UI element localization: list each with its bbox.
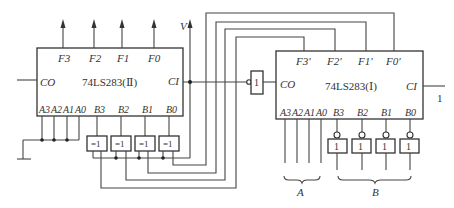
- pin-b3-i: B3: [333, 107, 344, 118]
- pin-b1-ii: B1: [142, 104, 153, 115]
- b-inverters: 1 1 1 1: [328, 119, 419, 170]
- pin-a1-ii: A1: [62, 104, 74, 115]
- a-inputs-ground-bus: [17, 116, 79, 159]
- pin-a2-i: A2: [291, 107, 303, 118]
- pin-co-ii: CO: [40, 76, 55, 88]
- pin-a3-ii: A3: [38, 104, 50, 115]
- pin-f1-prime: F1': [357, 55, 373, 67]
- circuit-diagram: F3 F2 F1 F0 74LS283(Ⅱ) CO CI A3 A2 A1 A0…: [0, 0, 454, 208]
- pin-f3-prime: F3': [295, 55, 311, 67]
- svg-text:1: 1: [358, 141, 363, 152]
- pin-b2-ii: B2: [118, 104, 129, 115]
- pin-b1-i: B1: [381, 107, 392, 118]
- svg-text:1: 1: [406, 141, 411, 152]
- pin-b0-i: B0: [405, 107, 416, 118]
- pin-f3: F3: [57, 52, 71, 64]
- svg-text:=1: =1: [115, 139, 125, 149]
- bus-label-a: A: [296, 186, 304, 198]
- pin-f2-prime: F2': [326, 55, 342, 67]
- pin-a3-i: A3: [279, 107, 291, 118]
- xor-gate-b1: =1: [135, 136, 155, 151]
- bus-label-b: B: [372, 186, 379, 198]
- xor-gate-b0: =1: [159, 136, 179, 151]
- pin-f2: F2: [88, 52, 102, 64]
- ci-i-value: 1: [437, 92, 443, 104]
- svg-text:1: 1: [334, 141, 339, 152]
- svg-text:1: 1: [254, 77, 259, 88]
- brace-b: [338, 176, 411, 183]
- pin-ci-i: CI: [406, 80, 418, 92]
- b-to-xor-wires: [97, 116, 169, 136]
- chip-ii-label: 74LS283(Ⅱ): [82, 76, 137, 89]
- a-input-wires-i: [285, 119, 321, 163]
- chip-ii-output-arrows: [61, 19, 157, 48]
- xor-gate-b2: =1: [111, 136, 131, 151]
- carry-line: [183, 19, 251, 158]
- svg-text:=1: =1: [91, 139, 101, 149]
- pin-a0-i: A0: [315, 107, 327, 118]
- supply-label-v: V: [180, 20, 188, 32]
- svg-text:=1: =1: [139, 139, 149, 149]
- pin-b0-ii: B0: [166, 104, 177, 115]
- pin-b2-i: B2: [357, 107, 368, 118]
- brace-a: [284, 176, 320, 183]
- pin-a1-i: A1: [303, 107, 315, 118]
- carry-inverter: 1: [247, 71, 276, 94]
- pin-a2-ii: A2: [50, 104, 62, 115]
- chip-i-label: 74LS283(Ⅰ): [325, 80, 377, 93]
- pin-co-i: CO: [280, 78, 295, 90]
- pin-ci-ii: CI: [168, 75, 180, 87]
- xor-gate-b3: =1: [87, 136, 107, 151]
- pin-f0-prime: F0': [385, 55, 401, 67]
- pin-f1: F1: [116, 52, 129, 64]
- svg-text:=1: =1: [163, 139, 173, 149]
- pin-f0: F0: [147, 52, 161, 64]
- xor-control-bus: [93, 151, 190, 160]
- pin-b3-ii: B3: [94, 104, 105, 115]
- pin-a0-ii: A0: [74, 104, 86, 115]
- svg-text:1: 1: [382, 141, 387, 152]
